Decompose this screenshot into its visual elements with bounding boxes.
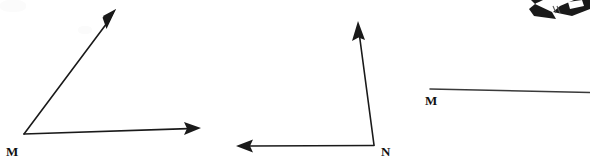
vertex-label-n: N bbox=[381, 145, 390, 158]
vertex-label-m-partial: M bbox=[425, 94, 437, 107]
angle-n-group bbox=[236, 21, 374, 153]
ray-m-upper-shaft bbox=[24, 19, 110, 134]
ray-m2-right-shaft bbox=[430, 89, 590, 93]
angle-m-group bbox=[24, 9, 201, 135]
ray-m-lower-shaft bbox=[24, 129, 188, 134]
ray-n-upper-shaft bbox=[359, 32, 374, 145]
cropped-arrow-fragment bbox=[529, 0, 590, 19]
vertex-label-m: M bbox=[6, 145, 18, 158]
diagram-canvas: M N M bbox=[0, 0, 590, 165]
angle-m-partial-group bbox=[430, 89, 590, 93]
ray-n-left-shaft bbox=[249, 146, 374, 147]
angle-figures-svg bbox=[0, 0, 590, 165]
ray-n-upper-arrowhead bbox=[352, 21, 365, 41]
